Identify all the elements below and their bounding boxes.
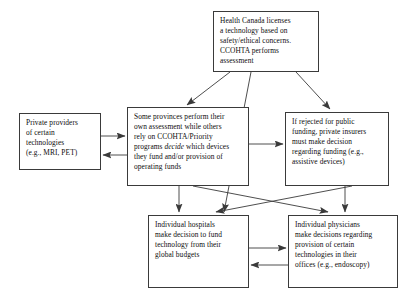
- node-private-providers-line-3: technologies: [26, 138, 64, 147]
- node-hospitals-line-4: global budgets: [155, 250, 199, 259]
- node-individual-hospitals[interactable]: Individual hospitals make decision to fu…: [148, 215, 249, 288]
- node-health-canada-line-2: a technology based on: [220, 26, 287, 35]
- node-rejected-line-2: funding, private insurers: [292, 127, 366, 136]
- node-private-providers-line-1: Private providers: [26, 118, 78, 127]
- node-health-canada-line-1: Health Canada licenses: [220, 16, 291, 25]
- node-individual-physicians[interactable]: Individual physicians make decisions reg…: [288, 215, 398, 288]
- node-private-providers[interactable]: Private providers of certain technologie…: [19, 113, 101, 170]
- node-provinces-emphasis-word: decide: [164, 142, 184, 151]
- node-rejected-line-3: must make decision: [292, 137, 352, 146]
- edge-provinces-to-physicians: [193, 186, 328, 212]
- node-health-canada[interactable]: Health Canada licenses a technology base…: [213, 11, 319, 72]
- node-rejected-line-1: If rejected for public: [292, 117, 355, 126]
- node-private-providers-line-2: of certain: [26, 128, 55, 137]
- node-physicians-line-4: technologies in their: [295, 250, 357, 259]
- node-rejected-line-4: regarding funding (e.g.,: [292, 147, 364, 156]
- node-provinces-line-3: rely on CCOHTA/Priority: [134, 132, 213, 141]
- edge-health-canada-to-rejected: [296, 72, 330, 109]
- node-provinces-line-6: operating funds: [134, 162, 181, 171]
- node-physicians-line-3: provision of certain: [295, 240, 354, 249]
- node-rejected-line-5: assistive devices): [292, 157, 345, 166]
- node-private-providers-line-4: (e.g., MRI, PET): [26, 148, 77, 157]
- node-hospitals-line-2: make decision to fund: [155, 230, 222, 239]
- node-rejected-public-funding[interactable]: If rejected for public funding, private …: [285, 112, 389, 186]
- edge-health-canada-to-provinces: [187, 72, 230, 105]
- node-provinces-line-4-suffix: which devices: [184, 142, 229, 151]
- edge-rejected-to-hospitals: [216, 186, 352, 212]
- node-hospitals-line-1: Individual hospitals: [155, 220, 215, 229]
- node-health-canada-line-4: CCOHTA performs: [220, 46, 279, 55]
- node-physicians-line-2: make decisions regarding: [295, 230, 372, 239]
- node-provinces[interactable]: Some provinces perform their own assessm…: [127, 107, 249, 186]
- node-hospitals-line-3: technology from their: [155, 240, 221, 249]
- node-provinces-line-5: they fund and/or provision of: [134, 152, 223, 161]
- node-provinces-line-2: own assessment while others: [134, 122, 222, 131]
- node-provinces-line-1: Some provinces perform their: [134, 112, 225, 121]
- node-physicians-line-1: Individual physicians: [295, 220, 360, 229]
- node-health-canada-line-5: assessment: [220, 56, 254, 65]
- node-provinces-line-4-prefix: programs: [134, 142, 164, 151]
- flowchart-diagram: Health Canada licenses a technology base…: [0, 0, 413, 301]
- node-health-canada-line-3: safety/ethical concerns.: [220, 36, 291, 45]
- node-physicians-line-5: offices (e.g., endoscopy): [295, 260, 370, 269]
